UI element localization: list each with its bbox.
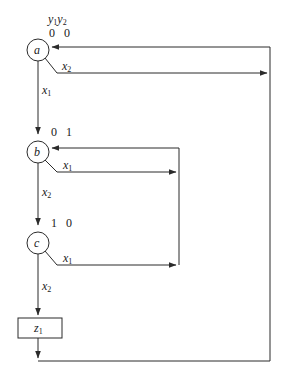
state-label-a: a	[34, 44, 40, 56]
transition-label-b-x2: x2	[42, 186, 51, 198]
transition-label-a-x2: x2	[62, 60, 71, 72]
transition-label-c-x2: x2	[42, 280, 51, 292]
state-encoding-c: 1 0	[51, 217, 75, 229]
state-encoding-b: 0 1	[51, 126, 75, 138]
state-encoding-a: 0 0	[49, 27, 73, 39]
state-var-y1: y1	[48, 12, 57, 26]
edge-a-x2-to-right-bus	[45, 58, 267, 73]
state-flow-diagram: y1y2 0 0 0 1 1 0 a b c x2 x1 x1 x2 x1 x2…	[0, 0, 282, 385]
transition-label-a-x1: x1	[42, 84, 51, 96]
state-variable-header: y1y2	[48, 13, 67, 25]
state-label-c: c	[34, 237, 39, 249]
output-label-z1: z1	[34, 322, 43, 334]
state-label-b: b	[34, 146, 40, 158]
transition-label-b-x1: x1	[63, 159, 72, 171]
transition-label-c-x1: x1	[63, 252, 72, 264]
state-var-y2: y2	[57, 12, 66, 26]
